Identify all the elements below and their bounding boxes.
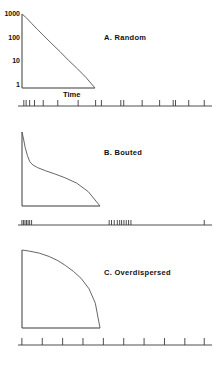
panel-a-raster bbox=[18, 100, 212, 106]
panel-c-overdispersed: C. Overdispersed bbox=[0, 240, 220, 365]
panel-c-axes bbox=[22, 250, 100, 328]
panel-b-raster bbox=[18, 220, 212, 225]
panel-b-axes bbox=[22, 132, 100, 206]
panel-b-bouted: B. Bouted bbox=[0, 120, 220, 240]
panel-a-plot bbox=[0, 0, 220, 120]
panel-c-plot bbox=[0, 240, 220, 365]
panel-c-curve bbox=[22, 250, 100, 328]
panel-b-curve bbox=[22, 132, 100, 206]
panel-a-random: A. Random 1000 100 10 1 Time bbox=[0, 0, 220, 120]
panel-a-curve bbox=[22, 14, 95, 88]
panel-c-raster bbox=[18, 338, 212, 345]
panel-b-plot bbox=[0, 120, 220, 240]
log-survivor-figure: A. Random 1000 100 10 1 Time B. Bouted C… bbox=[0, 0, 220, 365]
